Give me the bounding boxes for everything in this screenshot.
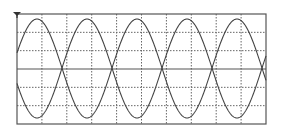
oscilloscope-display (0, 0, 282, 137)
